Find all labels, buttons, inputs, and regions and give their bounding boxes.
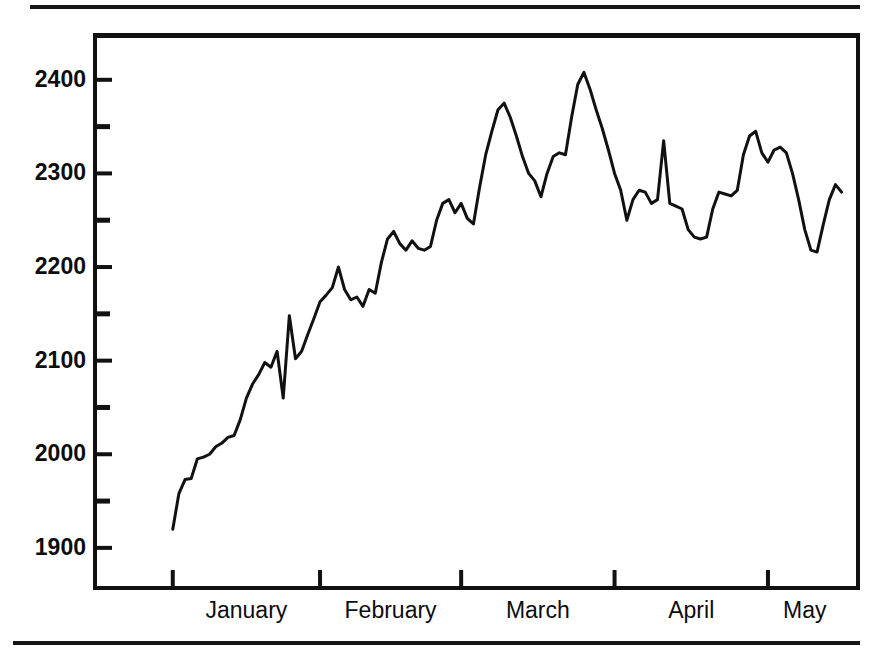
y-axis-tick-label: 2400 [0,68,86,91]
top-horizontal-rule [30,5,860,9]
x-axis-tick-labels: JanuaryFebruaryMarchAprilMay [0,598,887,632]
y-axis-tick-labels: 190020002100220023002400 [0,0,86,667]
y-axis-tick-label: 2200 [0,255,86,278]
y-axis-tick-label: 2000 [0,442,86,465]
x-axis-month-label: March [506,598,570,623]
chart-figure: 190020002100220023002400 JanuaryFebruary… [0,0,887,667]
x-axis-month-label: May [783,598,826,623]
x-axis-month-label: April [668,598,714,623]
y-axis-tick-label: 2100 [0,349,86,372]
bottom-horizontal-rule [13,641,860,645]
x-axis-month-label: January [205,598,287,623]
y-axis-tick-label: 2300 [0,161,86,184]
y-axis-tick-label: 1900 [0,536,86,559]
x-axis-month-label: February [345,598,437,623]
plot-area-frame [93,33,860,590]
